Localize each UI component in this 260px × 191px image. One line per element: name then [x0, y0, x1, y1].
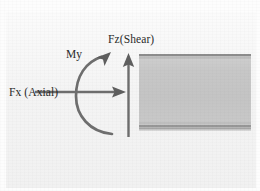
axial-force-label: Fx (Axial) [9, 86, 58, 98]
beam-bottom-edge-line-2 [139, 128, 251, 129]
shear-force-label: Fz(Shear) [108, 33, 154, 45]
beam-load-diagram: Fx (Axial) Fz(Shear) My [0, 0, 260, 191]
moment-label: My [66, 48, 82, 60]
beam-bottom-inner-line [139, 123, 251, 124]
beam-group [139, 54, 251, 131]
beam-bottom-edge-line [139, 125, 251, 127]
beam-bottom-shadow-line [139, 130, 251, 131]
shear-force-arrow [123, 53, 134, 137]
beam-top-inner-line [139, 57, 251, 58]
beam-body [139, 54, 251, 130]
beam-top-edge-line [139, 54, 251, 56]
